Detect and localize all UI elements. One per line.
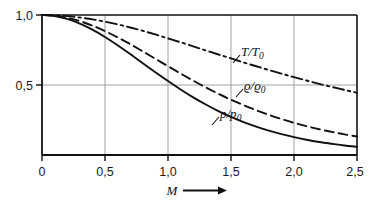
x-tick-label-1.5: 1,5 bbox=[222, 165, 239, 179]
isentropic-flow-chart: 1,0 0,5 0 0,5 1,0 1,5 2,0 2,5 T/T0 ϱ/ϱ0 … bbox=[0, 0, 385, 201]
x-tick-label-1.0: 1,0 bbox=[159, 165, 176, 179]
chart-figure: 1,0 0,5 0 0,5 1,0 1,5 2,0 2,5 T/T0 ϱ/ϱ0 … bbox=[0, 0, 385, 201]
annotation-rho-rho0-text: ϱ/ϱ bbox=[244, 78, 261, 93]
x-axis-arrow-icon bbox=[183, 187, 227, 195]
annotation-p-p0-text: p/p bbox=[219, 106, 237, 121]
y-tick-label-0.5: 0,5 bbox=[16, 79, 33, 93]
y-tick-label-1.0: 1,0 bbox=[16, 9, 33, 23]
x-tick-label-0.5: 0,5 bbox=[96, 165, 113, 179]
annotation-rho-rho0-sub: 0 bbox=[261, 85, 266, 95]
annotation-t-t0-text: T/T bbox=[241, 44, 260, 59]
annotation-t-t0-sub: 0 bbox=[259, 51, 264, 61]
x-tick-label-2.5: 2,5 bbox=[346, 165, 363, 179]
x-axis-title: M bbox=[166, 183, 179, 198]
annotation-p-p0-sub: 0 bbox=[237, 113, 242, 123]
x-tick-label-0: 0 bbox=[39, 165, 46, 179]
x-tick-label-2.0: 2,0 bbox=[285, 165, 302, 179]
